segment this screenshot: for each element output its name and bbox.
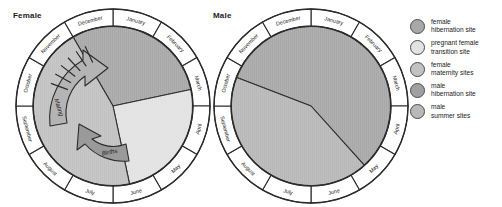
legend-item-male-summer-sites: male summer sites [410, 103, 502, 120]
legend-swatch-pregnant-female-transition-site [410, 40, 425, 55]
legend-label-female-hibernation-site: female hibernation site [431, 18, 476, 35]
legend-swatch-female-maternity-sites [410, 62, 425, 77]
legend-item-pregnant-female-transition-site: pregnant female transition site [410, 39, 502, 56]
legend-label-female-maternity-sites: female maternity sites [431, 61, 474, 78]
legend-item-male-hibernation-site: male hibernation site [410, 82, 502, 99]
legend-line1: female [431, 18, 476, 26]
legend-line1: female [431, 61, 474, 69]
legend-label-male-hibernation-site: male hibernation site [431, 82, 476, 99]
legend-swatch-female-hibernation-site [410, 19, 425, 34]
legend-label-pregnant-female-transition-site: pregnant female transition site [431, 39, 479, 56]
legend-line1: pregnant female [431, 39, 479, 47]
legend-line2: hibernation site [431, 90, 476, 98]
legend-item-female-maternity-sites: female maternity sites [410, 61, 502, 78]
legend-line2: hibernation site [431, 26, 476, 34]
cycle-wheel-male: JanuaryFebruaryMarchAprilMayJuneJulyAugu… [203, 0, 418, 207]
legend-line2: transition site [431, 48, 479, 56]
legend: female hibernation site pregnant female … [410, 18, 502, 125]
cycle-wheel-female: JanuaryFebruaryMarchAprilMayJuneJulyAugu… [5, 0, 220, 207]
legend-line1: male [431, 103, 470, 111]
legend-swatch-male-summer-sites [410, 104, 425, 119]
legend-line1: male [431, 82, 476, 90]
legend-line2: maternity sites [431, 69, 474, 77]
legend-label-male-summer-sites: male summer sites [431, 103, 470, 120]
legend-swatch-male-hibernation-site [410, 83, 425, 98]
legend-item-female-hibernation-site: female hibernation site [410, 18, 502, 35]
legend-line2: summer sites [431, 112, 470, 120]
figure-canvas: Female Male JanuaryFebruaryMarchAprilMay… [0, 0, 502, 207]
